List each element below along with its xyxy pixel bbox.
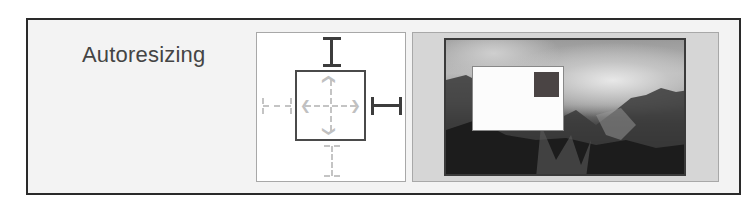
- height-spring[interactable]: ❮ ❯: [321, 75, 341, 136]
- arrow-right-icon: ❯: [350, 99, 361, 112]
- top-strut[interactable]: [323, 37, 341, 67]
- view-frame-square: ❮ ❯ ❮ ❯: [295, 70, 366, 141]
- right-strut-line: [371, 104, 402, 107]
- arrow-up-icon: ❮: [323, 74, 336, 85]
- left-strut-cap-right: [290, 98, 292, 114]
- sample-subview: [472, 66, 564, 131]
- bottom-strut-cap-bottom: [324, 175, 340, 177]
- left-strut-line: [263, 105, 291, 107]
- top-strut-line: [330, 37, 333, 67]
- sample-subview-square: [534, 72, 559, 97]
- arrow-down-icon: ❯: [323, 126, 336, 137]
- height-spring-line: [330, 80, 332, 131]
- autoresizing-label: Autoresizing: [82, 42, 205, 68]
- top-strut-cap-bottom: [323, 64, 341, 67]
- bottom-strut-line: [331, 146, 333, 176]
- left-strut[interactable]: [261, 95, 293, 117]
- arrow-left-icon: ❮: [300, 99, 311, 112]
- right-strut[interactable]: [371, 97, 402, 115]
- bottom-strut[interactable]: [321, 144, 343, 178]
- autoresizing-preview: [412, 32, 719, 182]
- autoresizing-control: ❮ ❯ ❮ ❯: [256, 32, 406, 182]
- left-strut-cap-left: [262, 98, 264, 114]
- bottom-strut-cap-top: [324, 145, 340, 147]
- preview-background-image: [444, 38, 686, 176]
- right-strut-cap-right: [399, 97, 402, 115]
